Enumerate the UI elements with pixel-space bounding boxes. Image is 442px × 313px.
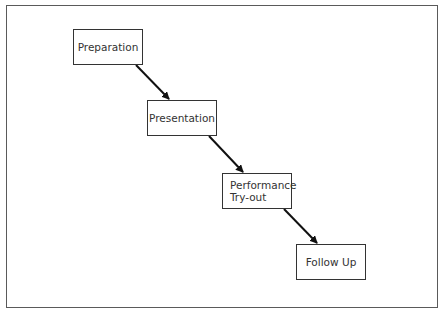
arrow-preparation-to-presentation bbox=[136, 65, 169, 99]
arrow-presentation-to-performance bbox=[209, 136, 243, 172]
step-box-preparation: Preparation bbox=[73, 29, 143, 65]
step-label: Presentation bbox=[149, 112, 215, 124]
step-box-follow-up: Follow Up bbox=[296, 244, 366, 280]
arrow-performance-to-follow-up bbox=[284, 209, 317, 243]
arrows-layer bbox=[0, 0, 442, 313]
step-label: Follow Up bbox=[306, 256, 357, 268]
step-label: Preparation bbox=[78, 41, 139, 53]
step-box-performance-try-out: Performance Try-out bbox=[222, 173, 292, 209]
step-box-presentation: Presentation bbox=[147, 100, 217, 136]
step-label: Performance Try-out bbox=[230, 179, 297, 203]
